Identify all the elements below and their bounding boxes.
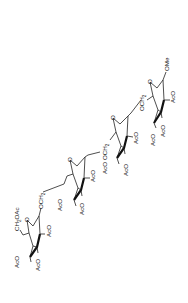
- ring-oxygen-4: O: [146, 79, 153, 84]
- ring-3: O AcO AcO AcO OCH2: [101, 113, 139, 176]
- acetoxy-label: AcO: [78, 203, 85, 215]
- ring-1: O CH2OAc OCH2 AcO AcO AcO: [13, 192, 52, 271]
- linkage-label: OCH2: [37, 192, 46, 209]
- ring-oxygen-1: O: [23, 217, 30, 222]
- acetoxy-label: AcO: [89, 170, 96, 182]
- linkage-label: OCH2: [101, 143, 110, 160]
- ring-oxygen-2: O: [66, 157, 73, 162]
- aglycone-label: OMe: [163, 57, 170, 71]
- acetoxy-label: AcO: [122, 164, 129, 176]
- acetoxy-label: AcO: [149, 134, 156, 146]
- acetoxy-label: AcO: [169, 91, 176, 103]
- acetoxy-label: AcO: [34, 259, 41, 271]
- ring-oxygen-3: O: [109, 115, 116, 120]
- acetoxy-label: AcO: [159, 125, 166, 137]
- acetoxy-label: AcO: [13, 256, 20, 268]
- acetoxy-label: AcO: [101, 162, 108, 174]
- acetoxy-label: AcO: [132, 132, 139, 144]
- side-chain-label: CH2OAc: [13, 208, 22, 232]
- acetoxy-label: AcO: [56, 199, 63, 211]
- acetoxy-label: AcO: [45, 225, 52, 237]
- tetrasaccharide-structure: O OMe AcO AcO AcO OCH2 O AcO AcO AcO OCH…: [0, 0, 188, 303]
- ring-4: O OMe AcO AcO AcO OCH2: [138, 57, 176, 146]
